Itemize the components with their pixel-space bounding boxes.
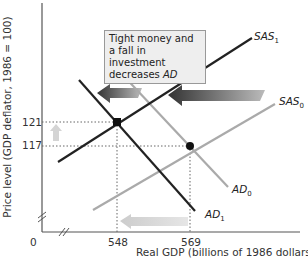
annotation-box: Tight money and a fall in investment dec… bbox=[104, 30, 206, 84]
sas-shift-arrow-icon bbox=[168, 85, 265, 106]
x-axis-label: Real GDP (billions of 1986 dollars) bbox=[136, 246, 308, 258]
annotation-line-2: a fall in investment bbox=[109, 45, 201, 69]
ad0-label: AD0 bbox=[232, 183, 252, 198]
guide-lines bbox=[42, 122, 190, 232]
y-tick-117: 117 bbox=[22, 139, 42, 151]
gdp-fall-arrow-icon bbox=[120, 214, 188, 229]
ad1-label: AD1 bbox=[205, 208, 225, 223]
sas0-label: SAS0 bbox=[279, 95, 304, 110]
y-axis-label: Price level (GDP deflator, 1986 = 100) bbox=[1, 12, 15, 222]
x-tick-548: 548 bbox=[108, 236, 128, 248]
y-tick-121: 121 bbox=[22, 116, 42, 128]
annotation-line-3: decreases AD bbox=[109, 69, 201, 81]
x-tick-0: 0 bbox=[30, 236, 37, 248]
new-equilibrium-point bbox=[113, 118, 121, 126]
sas1-label: SAS1 bbox=[254, 30, 279, 45]
annotation-line-1: Tight money and bbox=[109, 33, 201, 45]
ad0-curve bbox=[120, 72, 228, 187]
price-rise-arrow-icon bbox=[50, 124, 62, 141]
annotation-line-3-italic: AD bbox=[163, 69, 178, 80]
initial-equilibrium-point bbox=[186, 142, 194, 150]
annotation-line-3-text: decreases bbox=[109, 69, 163, 80]
